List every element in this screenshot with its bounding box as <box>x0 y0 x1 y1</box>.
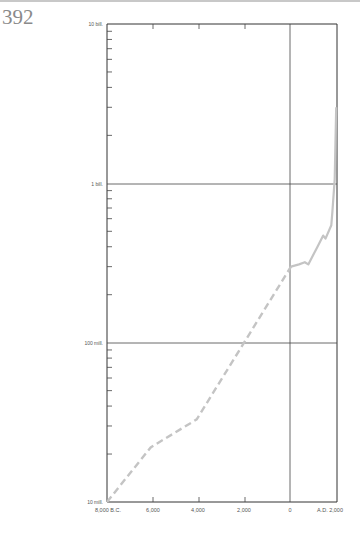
x-label-0: 0 <box>288 507 291 513</box>
x-label-2000: 2,000 <box>237 507 251 513</box>
y-label-100-mill: 100 mill. <box>84 340 103 346</box>
population-curve-dashed <box>107 267 291 502</box>
x-axis-ticks <box>153 24 245 502</box>
x-axis-labels: 8,000 B.C. 6,000 4,000 2,000 0 A.D. 2,00… <box>95 507 343 513</box>
y-label-1-bill: 1 bill. <box>91 181 103 187</box>
y-label-10-mill: 10 mill. <box>87 499 103 505</box>
x-label-8000bc: 8,000 B.C. <box>95 507 121 513</box>
population-curve-solid <box>291 107 336 266</box>
x-label-ad2000: A.D. 2,000 <box>317 507 343 513</box>
y-axis-ticks <box>107 31 112 454</box>
population-chart: 10 bill. 1 bill. 100 mill. 10 mill. 8,00… <box>0 0 360 533</box>
y-label-10-bill: 10 bill. <box>89 21 103 27</box>
x-label-4000: 4,000 <box>191 507 205 513</box>
y-axis-labels: 10 bill. 1 bill. 100 mill. 10 mill. <box>84 21 103 505</box>
x-label-6000: 6,000 <box>146 507 160 513</box>
